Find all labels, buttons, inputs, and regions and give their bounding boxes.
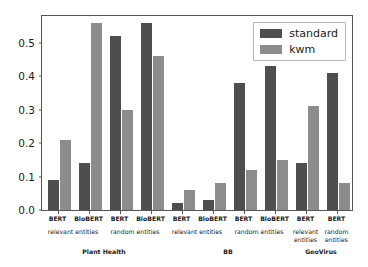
x-tick-label: BERT — [297, 215, 315, 222]
bar-group — [232, 16, 256, 210]
bar-group — [170, 16, 194, 210]
x-tick-mark — [120, 210, 121, 214]
x-tick-label: BERT — [173, 215, 191, 222]
bar-standard — [203, 200, 214, 210]
bar-standard — [234, 83, 245, 210]
y-tick-label: 0.5 — [18, 37, 35, 49]
x-tick-label: BERT — [111, 215, 129, 222]
y-tick-label: 0.3 — [18, 104, 35, 116]
entity-group-label: relevantentities — [293, 228, 319, 244]
bar-kwm — [153, 56, 164, 210]
legend-item-standard: standard — [260, 27, 338, 40]
bar-kwm — [277, 160, 288, 210]
bar-kwm — [215, 183, 226, 210]
x-tick-label: BERT — [328, 215, 346, 222]
legend-label-standard: standard — [289, 27, 338, 40]
bar-group — [77, 16, 101, 210]
dataset-group-label: BB — [223, 248, 232, 255]
x-tick-label: BioBERT — [74, 215, 103, 222]
bar-kwm — [122, 110, 133, 210]
bar-kwm — [339, 183, 350, 210]
x-tick-mark — [182, 210, 183, 214]
bar-standard — [141, 23, 152, 210]
bar-group — [46, 16, 70, 210]
y-tick-label: 0.4 — [18, 70, 35, 82]
x-tick-mark — [275, 210, 276, 214]
bar-kwm — [246, 170, 257, 210]
x-tick-mark — [244, 210, 245, 214]
entity-group-label: random entities — [234, 228, 283, 236]
x-tick-mark — [306, 210, 307, 214]
bar-standard — [296, 163, 307, 210]
x-tick-label: BioBERT — [198, 215, 227, 222]
dataset-group-label: Plant Health — [82, 248, 125, 255]
legend-item-kwm: kwm — [260, 43, 338, 56]
legend-label-kwm: kwm — [289, 43, 315, 56]
x-tick-label: BioBERT — [260, 215, 289, 222]
bar-standard — [327, 73, 338, 210]
x-tick-label: BERT — [235, 215, 253, 222]
bar-kwm — [184, 190, 195, 210]
entity-group-label: random entities — [110, 228, 159, 236]
x-tick-mark — [151, 210, 152, 214]
x-tick-mark — [213, 210, 214, 214]
bar-standard — [172, 203, 183, 210]
entity-group-label: relevant entities — [48, 228, 99, 236]
plot-axes: 0.00.10.20.30.40.5 standard kwm BERTBioB… — [41, 15, 353, 211]
bar-group — [201, 16, 225, 210]
x-tick-mark — [58, 210, 59, 214]
bar-standard — [265, 66, 276, 210]
entity-group-label: relevant entities — [172, 228, 223, 236]
bar-kwm — [308, 106, 319, 210]
x-tick-mark — [89, 210, 90, 214]
bar-standard — [79, 163, 90, 210]
y-tick-label: 0.1 — [18, 171, 35, 183]
bar-group — [139, 16, 163, 210]
y-tick-label: 0.0 — [18, 204, 35, 216]
chart-legend: standard kwm — [253, 22, 346, 61]
bar-kwm — [91, 23, 102, 210]
bar-kwm — [60, 140, 71, 210]
bar-group — [108, 16, 132, 210]
dataset-group-label: GeoVirus — [305, 248, 336, 255]
legend-swatch-standard — [260, 29, 282, 38]
bar-chart-figure: 0.00.10.20.30.40.5 standard kwm BERTBioB… — [0, 0, 368, 267]
bar-standard — [110, 36, 121, 210]
x-tick-mark — [337, 210, 338, 214]
bar-standard — [48, 180, 59, 210]
legend-swatch-kwm — [260, 45, 282, 54]
y-tick-label: 0.2 — [18, 137, 35, 149]
x-tick-label: BioBERT — [136, 215, 165, 222]
entity-group-label: randomentities — [325, 228, 349, 244]
x-tick-label: BERT — [49, 215, 67, 222]
